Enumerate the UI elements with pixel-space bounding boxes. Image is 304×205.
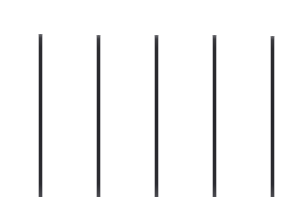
image-canvas [0, 0, 304, 205]
vertical-line-3 [155, 35, 158, 197]
vertical-lines-group [0, 0, 304, 205]
vertical-line-1 [39, 34, 42, 197]
vertical-line-5 [271, 36, 274, 197]
vertical-line-2 [97, 35, 100, 197]
vertical-line-4 [213, 35, 216, 197]
